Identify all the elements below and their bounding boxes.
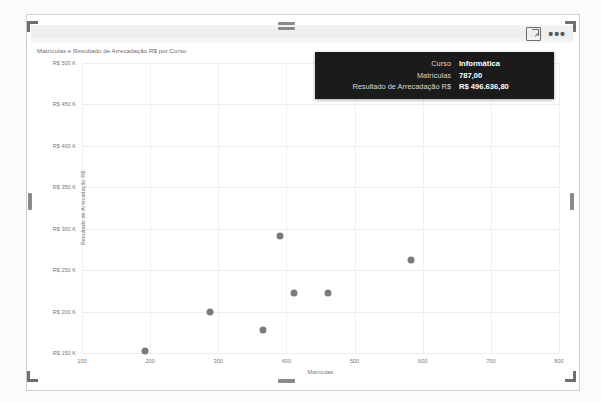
tooltip-row: CursoInformática <box>324 59 543 68</box>
resize-handle-right[interactable] <box>570 193 574 210</box>
gridline-horizontal <box>82 353 559 354</box>
tooltip-row-label: Resultado de Arrecadação R$ <box>352 82 459 91</box>
gridline-horizontal <box>82 229 559 230</box>
more-options-icon[interactable]: ••• <box>548 29 566 39</box>
chart-title: Matrículas e Resultado de Arrecadação R$… <box>37 47 186 54</box>
y-axis-title: Resultado de Arrecadação R$ <box>80 171 86 246</box>
y-axis-tick-label: R$ 500 K <box>53 60 76 66</box>
tooltip-row: Matrículas787,00 <box>324 71 543 80</box>
resize-handle-top-left[interactable] <box>27 21 38 32</box>
gridline-vertical <box>491 63 492 353</box>
gridline-vertical <box>286 63 287 353</box>
gridline-vertical <box>559 63 560 353</box>
screenshot-root: ••• Matrículas e Resultado de Arrecadaçã… <box>0 0 601 402</box>
x-axis-tick-label: 400 <box>282 358 291 364</box>
data-point[interactable] <box>260 326 267 333</box>
plot-background <box>82 63 559 353</box>
gridline-vertical <box>150 63 151 353</box>
focus-mode-icon[interactable] <box>526 27 541 41</box>
gridline-horizontal <box>82 270 559 271</box>
gridline-horizontal <box>82 312 559 313</box>
gridline-vertical <box>423 63 424 353</box>
data-point[interactable] <box>142 348 149 355</box>
data-point-tooltip: CursoInformáticaMatrículas787,00Resultad… <box>315 52 554 99</box>
drag-handle-top[interactable] <box>278 27 295 30</box>
data-point[interactable] <box>276 233 283 240</box>
tooltip-pointer-arrow <box>534 62 542 74</box>
x-axis-tick-label: 500 <box>350 358 359 364</box>
resize-handle-bottom[interactable] <box>278 379 295 383</box>
x-axis-tick-label: 800 <box>554 358 563 364</box>
x-axis-tick-label: 600 <box>418 358 427 364</box>
tooltip-row: Resultado de Arrecadação R$R$ 496.636,80 <box>324 82 543 91</box>
x-axis-title: Matrículas <box>308 369 334 375</box>
tooltip-row-label: Curso <box>431 59 459 68</box>
tooltip-row-label: Matrículas <box>417 71 459 80</box>
visual-header-actions[interactable]: ••• <box>526 27 566 41</box>
gridline-horizontal <box>82 187 559 188</box>
plot-area[interactable]: R$ 150 KR$ 200 KR$ 250 KR$ 300 KR$ 350 K… <box>82 63 559 353</box>
resize-handle-left[interactable] <box>28 193 32 210</box>
visual-header-band <box>31 25 573 43</box>
y-axis-tick-label: R$ 400 K <box>53 143 76 149</box>
gridline-vertical <box>355 63 356 353</box>
gridline-horizontal <box>82 146 559 147</box>
y-axis-tick-label: R$ 300 K <box>53 226 76 232</box>
resize-handle-top-right[interactable] <box>565 21 576 32</box>
x-axis-tick-label: 100 <box>77 358 86 364</box>
y-axis-tick-label: R$ 250 K <box>53 267 76 273</box>
y-axis-tick-label: R$ 450 K <box>53 101 76 107</box>
tooltip-row-value: Informática <box>459 59 543 68</box>
x-axis-tick-label: 700 <box>486 358 495 364</box>
data-point[interactable] <box>324 289 331 296</box>
scatter-chart-visual[interactable]: ••• Matrículas e Resultado de Arrecadaçã… <box>31 25 573 381</box>
y-axis-tick-label: R$ 150 K <box>53 350 76 356</box>
y-axis-tick-label: R$ 200 K <box>53 309 76 315</box>
x-axis-tick-label: 300 <box>214 358 223 364</box>
data-point[interactable] <box>408 257 415 264</box>
tooltip-row-value: 787,00 <box>459 71 543 80</box>
resize-handle-top[interactable] <box>278 22 295 25</box>
resize-handle-bottom-left[interactable] <box>27 371 38 382</box>
resize-handle-bottom-right[interactable] <box>565 371 576 382</box>
tooltip-row-value: R$ 496.636,80 <box>459 82 543 91</box>
y-axis-tick-label: R$ 350 K <box>53 184 76 190</box>
x-axis-tick-label: 200 <box>145 358 154 364</box>
data-point[interactable] <box>207 309 214 316</box>
data-point[interactable] <box>290 289 297 296</box>
gridline-horizontal <box>82 104 559 105</box>
gridline-vertical <box>218 63 219 353</box>
